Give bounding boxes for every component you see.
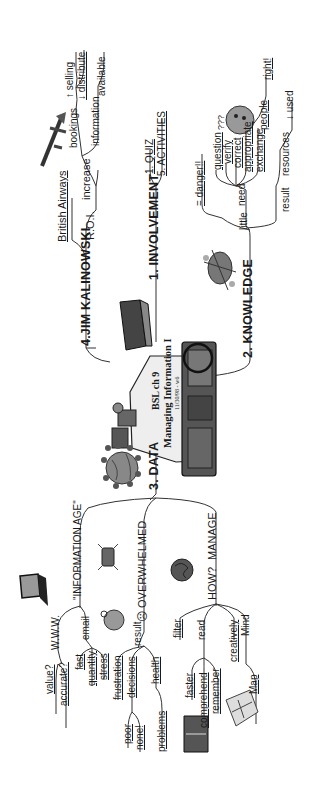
branch-involvement: 1. INVOLVEMENT xyxy=(148,174,161,280)
node-used: ↓ used xyxy=(284,91,295,120)
node-decisions: decisions xyxy=(126,656,137,698)
node-overwhelmed: ☹ OVERWHELMED xyxy=(136,521,148,622)
node-accurate: accurate? xyxy=(58,662,69,706)
node-filter: filter xyxy=(172,619,183,638)
node-stress: stress xyxy=(98,653,109,680)
node-remember: remember xyxy=(210,668,221,714)
node-appropriate: appropriate xyxy=(242,121,253,172)
node-frustration: frustration xyxy=(112,656,123,700)
node-roi: R.O.I. xyxy=(84,211,96,240)
node-mind: Mind xyxy=(240,614,251,636)
node-problems: problems xyxy=(156,711,167,752)
node-quiz: 1. QUIZ xyxy=(144,139,155,174)
stressed-face-icon xyxy=(101,610,124,630)
node-map: Map xyxy=(248,675,259,694)
node-quantity: quantity xyxy=(86,651,97,686)
node-resources: resources xyxy=(280,132,291,176)
node-selling: ↑ selling xyxy=(64,62,75,98)
node-none: none! xyxy=(134,725,145,750)
wild-creature-icon xyxy=(203,250,236,290)
node-people: people xyxy=(258,100,269,130)
node-read: read xyxy=(196,620,207,640)
airplane-icon xyxy=(42,112,66,166)
globe-icon xyxy=(101,443,141,489)
node-manage: MANAGE xyxy=(206,512,218,560)
node-little: little xyxy=(238,212,249,230)
branch-jim-kalinowski: 4.JIM KALINOWSKI xyxy=(80,228,93,346)
svg-text:???: ??? xyxy=(216,115,226,130)
branch-knowledge: 2. KNOWLEDGE xyxy=(242,259,255,358)
node-information: information xyxy=(90,97,101,146)
center-date: 11/30/98 - w6 xyxy=(174,377,181,410)
map-icon xyxy=(226,690,258,726)
center-title-line2: Managing Information I xyxy=(162,338,173,448)
node-available: available xyxy=(96,57,107,96)
node-danger: = danger!! xyxy=(194,161,205,206)
brain-icon xyxy=(171,559,193,581)
node-distribute: ↓ distribute xyxy=(76,52,87,100)
node-value: value? xyxy=(44,665,55,694)
book-stack-icon xyxy=(120,300,152,350)
node-bookings: bookings xyxy=(68,108,79,148)
node-british-airways: British Airways xyxy=(56,170,68,242)
node-health: health xyxy=(150,657,161,684)
branch-data: 3. DATA xyxy=(148,442,161,490)
node-www: W.W.W. xyxy=(50,615,61,650)
node-overwhelmed-result: result xyxy=(132,622,143,646)
node-comprehend: comprehend xyxy=(198,672,209,728)
laptop-icon xyxy=(20,574,48,606)
node-exchange: exchange xyxy=(254,129,265,172)
node-how: HOW? xyxy=(206,567,218,600)
node-information-age: "INFORMATION AGE" xyxy=(72,500,83,600)
node-email: email xyxy=(80,616,91,640)
node-poor: poor xyxy=(122,724,133,744)
center-title-line1: BSL ch 9 xyxy=(150,372,161,410)
pager-icon xyxy=(98,544,118,570)
node-right: right! xyxy=(262,58,273,80)
node-increase: increase xyxy=(80,158,92,200)
node-activities: 5. ACTIVITIES xyxy=(156,111,167,176)
node-knowledge-result: result xyxy=(280,188,291,212)
node-creatively: creatively xyxy=(228,620,239,662)
node-faster: faster xyxy=(184,673,195,698)
node-fast: fast xyxy=(74,654,85,670)
node-need: need xyxy=(236,184,247,206)
